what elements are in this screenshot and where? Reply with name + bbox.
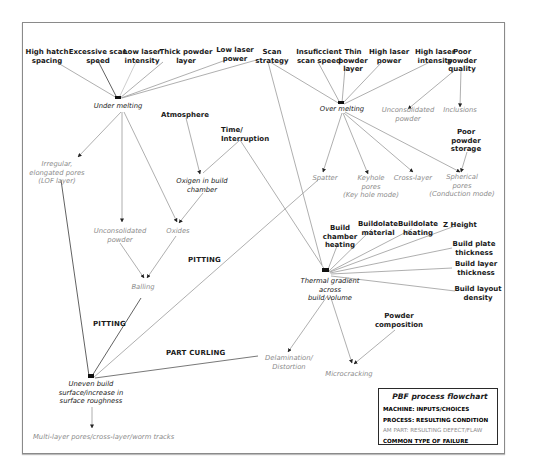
node-powder-composition: Powder composition xyxy=(375,312,423,329)
node-over-melting: Over melting xyxy=(320,105,364,114)
label: Buildolate heating xyxy=(398,220,438,237)
edge-under-melting-to-oxides xyxy=(124,112,177,222)
label: Unconsolidated powder xyxy=(94,227,147,244)
node-build-layout-density: Build layout density xyxy=(454,285,501,302)
label: Cross-layer xyxy=(394,174,432,182)
label: Low laser intensity xyxy=(123,48,161,65)
node-inclusions: Inclusions xyxy=(443,106,477,115)
label: Oxigen in build chamber xyxy=(176,177,227,194)
label: Oxides xyxy=(166,227,189,235)
node-insufficient-scan-speed: Insuficcient scan speed xyxy=(296,48,342,65)
label: PITTING xyxy=(188,256,221,264)
edge-thermal-to-delamination xyxy=(288,295,328,352)
node-spherical-pores: Spherical pores (Conduction mode) xyxy=(429,173,494,199)
node-time-interruption: Time/ Interruption xyxy=(221,126,269,143)
edge-time-to-thermal-gradient xyxy=(240,140,325,270)
label: Keyhole pores (Key hole mode) xyxy=(343,174,399,199)
label: Build layout density xyxy=(454,285,501,302)
node-under-melting: Under melting xyxy=(94,102,143,111)
node-balling: Balling xyxy=(131,283,154,292)
thermal-junction-icon xyxy=(322,268,329,272)
edge-powder-comp-to-microcracking xyxy=(354,330,395,364)
edge-under-melting-to-irregular-pores xyxy=(78,112,121,157)
node-poor-powder-storage: Poor powder storage xyxy=(451,128,481,154)
node-spatter: Spatter xyxy=(312,174,337,183)
node-thin-powder-layer: Thin powder layer xyxy=(338,48,368,74)
label: Insuficcient scan speed xyxy=(296,48,342,65)
node-keyhole-pores: Keyhole pores (Key hole mode) xyxy=(343,174,399,200)
edge-atmosphere-to-oxygen xyxy=(186,118,200,174)
edge-time-to-oxygen xyxy=(203,140,240,173)
edge-thermal-to-microcracking xyxy=(330,295,352,363)
edge-delamination-to-uneven xyxy=(95,356,258,378)
uneven-junction-icon xyxy=(88,374,94,378)
edge-poor-powder-quality-to-unconsolidated xyxy=(408,70,455,109)
legend: PBF process flowchart MACHINE: INPUTS/CH… xyxy=(378,388,498,445)
label: Spherical pores (Conduction mode) xyxy=(429,173,494,198)
label: Irregular, elongated pores (LOF layer) xyxy=(29,160,84,185)
label: Time/ Interruption xyxy=(221,126,269,143)
legend-am-part: AM PART: RESULTING DEFECT/FLAW xyxy=(383,425,497,436)
node-irregular-pores: Irregular, elongated pores (LOF layer) xyxy=(29,160,84,186)
label: Unconsolidated powder xyxy=(382,106,435,123)
node-oxides: Oxides xyxy=(166,227,189,236)
label: Low laser power xyxy=(216,46,254,63)
legend-machine: MACHINE: INPUTS/CHOICES xyxy=(383,404,497,415)
node-thick-powder-layer: Thick powder layer xyxy=(160,48,213,65)
legend-title: PBF process flowchart xyxy=(383,392,497,401)
node-high-laser-power: High laser power xyxy=(369,48,409,65)
node-buildplate-material: Buildolate material xyxy=(358,220,398,237)
edge-oxides-to-balling xyxy=(147,236,176,278)
label: Delamination/ Distortion xyxy=(265,354,313,371)
edge-poor-storage-to-spherical xyxy=(461,152,467,172)
node-multilayer-pores: Multi-layer pores/cross-layer/worm track… xyxy=(33,433,174,442)
label: Over melting xyxy=(320,105,364,113)
node-high-hatch-spacing: High hatch spacing xyxy=(26,48,69,65)
failure-pitting-upper: PITTING xyxy=(188,256,221,265)
label: Build chamber heating xyxy=(323,224,357,249)
node-build-plate-thickness: Build plate thickness xyxy=(453,240,496,257)
label: Powder composition xyxy=(375,312,423,329)
edge-scan-strategy-to-thermal-gradient xyxy=(268,62,322,265)
label: High laser power xyxy=(369,48,409,65)
node-low-laser-power: Low laser power xyxy=(216,46,254,63)
label: Poor powder storage xyxy=(451,128,481,153)
node-poor-powder-quality: Poor powder quality xyxy=(447,48,477,74)
node-excessive-scan-speed: Excessive scan speed xyxy=(69,48,128,65)
failure-part-curling: PART CURLING xyxy=(166,349,225,358)
label: Poor powder quality xyxy=(447,48,477,73)
label: Z Height xyxy=(443,221,477,229)
node-microcracking: Microcracking xyxy=(325,370,372,379)
over-melting-junction-icon xyxy=(338,101,344,104)
node-low-laser-intensity: Low laser intensity xyxy=(123,48,161,65)
label: Buildolate material xyxy=(358,220,398,237)
label: Build layer thickness xyxy=(455,260,497,277)
label: Balling xyxy=(131,283,154,291)
node-thermal-gradient: Thermal gradient across build volume xyxy=(301,277,360,303)
edge-poor-powder-quality-to-inclusions xyxy=(460,70,461,107)
node-atmosphere: Atmosphere xyxy=(161,111,209,120)
label: Uneven build surface/increase in surface… xyxy=(59,380,124,405)
label: Thick powder layer xyxy=(160,48,213,65)
node-scan-strategy: Scan strategy xyxy=(255,48,288,65)
edge-oxygen-to-oxides xyxy=(179,193,203,223)
label: Multi-layer pores/cross-layer/worm track… xyxy=(33,433,174,441)
node-z-height: Z Height xyxy=(443,221,477,230)
label: Under melting xyxy=(94,102,143,110)
label: Scan strategy xyxy=(255,48,288,65)
under-melting-junction-icon xyxy=(115,96,121,99)
legend-failure: COMMON TYPE OF FAILURE xyxy=(383,436,497,447)
label: Build plate thickness xyxy=(453,240,496,257)
node-uneven-surface: Uneven build surface/increase in surface… xyxy=(59,380,124,406)
node-unconsolidated-powder-right: Unconsolidated powder xyxy=(382,106,435,123)
node-delamination: Delamination/ Distortion xyxy=(265,354,313,371)
node-buildplate-heating: Buildolate heating xyxy=(398,220,438,237)
node-unconsolidated-powder-left: Unconsolidated powder xyxy=(94,227,147,244)
label: Atmosphere xyxy=(161,111,209,119)
node-build-layer-thickness: Build layer thickness xyxy=(455,260,497,277)
label: Thermal gradient across build volume xyxy=(301,277,360,302)
legend-process: PROCESS: RESULTING CONDITION xyxy=(383,415,497,426)
label: Thin powder layer xyxy=(338,48,368,73)
label: Excessive scan speed xyxy=(69,48,128,65)
node-oxygen-in-chamber: Oxigen in build chamber xyxy=(176,177,227,194)
